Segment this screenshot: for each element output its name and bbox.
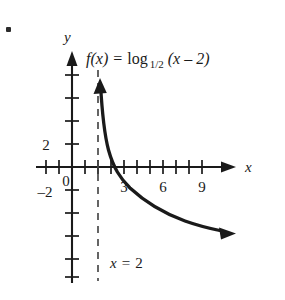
- x-axis: [36, 162, 236, 173]
- y-tick-label-neg2: –2: [37, 184, 53, 200]
- y-axis-label: y: [62, 29, 71, 45]
- x-axis-label: x: [244, 159, 252, 175]
- asymptote-value: 2: [135, 255, 143, 271]
- bullet-marker: [6, 27, 11, 32]
- asymptote-equals: =: [122, 255, 130, 271]
- equation-argument: (x – 2): [168, 50, 210, 68]
- log-function-plot: y x 2 –2 0 3 6 9 f(x)=log1/2(x – 2) x=2: [0, 0, 285, 300]
- graph-figure: y x 2 –2 0 3 6 9 f(x)=log1/2(x – 2) x=2: [0, 0, 285, 300]
- asymptote-var: x: [109, 255, 117, 271]
- equation-equals: =: [113, 50, 122, 67]
- origin-label: 0: [62, 173, 70, 189]
- equation-log: log: [127, 50, 147, 68]
- curve-arrow-right: [219, 228, 236, 240]
- curve-arrow-up: [94, 78, 107, 94]
- asymptote-label: x=2: [109, 255, 143, 271]
- function-equation: f(x)=log1/2(x – 2): [86, 50, 210, 70]
- equation-fx: f(x): [86, 50, 108, 68]
- x-tick-label-6: 6: [159, 179, 167, 195]
- equation-base: 1/2: [150, 58, 164, 70]
- x-tick-label-9: 9: [198, 179, 206, 195]
- function-curve: [94, 78, 237, 240]
- x-tick-label-3: 3: [120, 179, 128, 195]
- y-tick-label-2: 2: [42, 137, 50, 153]
